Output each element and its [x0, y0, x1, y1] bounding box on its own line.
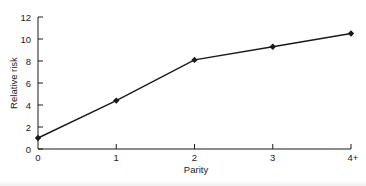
y-tick-label: 8 — [26, 56, 31, 67]
x-axis-title: Parity — [184, 164, 209, 175]
x-tick-label: 3 — [270, 152, 275, 163]
x-tick-label: 2 — [192, 152, 197, 163]
y-tick-label: 10 — [20, 34, 31, 45]
y-tick-label: 6 — [26, 78, 31, 89]
y-axis-title: Relative risk — [8, 57, 19, 109]
diamond-marker — [348, 30, 354, 36]
y-tick-label: 4 — [26, 100, 31, 111]
x-tick-label: 0 — [35, 152, 40, 163]
y-axis: 024681012 — [20, 12, 43, 155]
x-tick-label: 1 — [114, 152, 119, 163]
y-tick-label: 12 — [20, 12, 31, 23]
diamond-marker — [113, 97, 119, 103]
x-axis: 01234+ — [35, 144, 359, 163]
y-tick-label: 2 — [26, 122, 31, 133]
clipped-caption — [0, 181, 366, 186]
diamond-marker — [270, 44, 276, 50]
diamond-marker — [35, 135, 41, 141]
line-chart: 024681012 01234+ Relative risk Parity — [0, 0, 366, 186]
diamond-marker — [191, 57, 197, 63]
series-line — [38, 34, 351, 139]
data-series — [35, 30, 354, 141]
x-tick-label: 4+ — [348, 152, 359, 163]
y-tick-label: 0 — [26, 144, 31, 155]
